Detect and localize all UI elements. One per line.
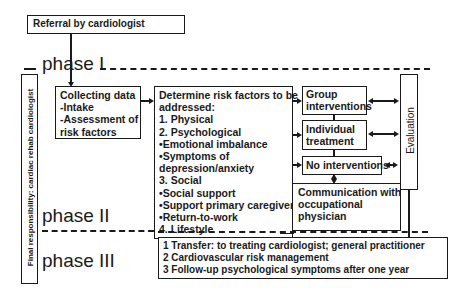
risk-line: Determine risk factors to be [159,89,288,101]
referral-label: Referral by cardiologist [33,18,179,30]
communication-box: Communication with occupational physicia… [292,183,401,231]
risk-line: 1. Physical [159,113,288,125]
responsibility-bar: Final responsibility: cardiac rehab card… [21,74,38,284]
individual-eval-line [372,133,394,135]
individual-eval-arrow-right [394,131,399,137]
phase-3-line: 2 Cardiovascular risk management [163,252,443,264]
risk-line: addressed: [159,101,288,113]
risk-line: depression/anxiety [159,162,288,174]
collecting-line: -Intake [60,101,136,113]
evaluation-label: Evaluation [405,101,416,161]
individual-line: Individual [306,123,363,135]
risk-line: •Symptoms of [159,150,288,162]
phase-3-line: 3 Follow-up psychological symptoms after… [163,264,443,276]
collecting-line: -Assessment of [60,113,136,125]
risk-line: 2. Psychological [159,126,288,138]
group-eval-line [372,100,394,102]
responsibility-label: Final responsibility: cardiac rehab card… [26,78,35,278]
individual-treatment-box: Individual treatment [302,120,367,150]
group-line: interventions [306,100,363,112]
risk-factors-box: Determine risk factors to be addressed: … [154,86,293,239]
phase-1-divider [100,68,430,70]
individual-line: treatment [306,135,363,147]
phase-3-label: phase III [42,251,115,271]
communication-line: physician [298,210,395,222]
evaluation-box: Evaluation [400,74,418,190]
phase-3-box: 1 Transfer: to treating cardiologist; ge… [158,237,448,279]
referral-box: Referral by cardiologist [27,15,185,34]
risk-line: 3. Social [159,174,288,186]
group-interventions-box: Group interventions [302,86,367,115]
no-interventions-box: No interventions [302,156,382,175]
phase-1-divider-left [24,68,36,70]
collecting-data-box: Collecting data -Intake -Assessment of r… [55,86,141,139]
no-interventions-label: No interventions [306,159,378,171]
risk-line: •Return-to-work [159,211,288,223]
phase-2-double-line [280,233,294,234]
risk-line: 4. Lifestyle [159,223,288,235]
phase-2-label: phase II [42,206,110,226]
phase-3-line: 1 Transfer: to treating cardiologist; ge… [163,240,443,252]
communication-line: occupational [298,198,395,210]
risk-line: •Emotional imbalance [159,138,288,150]
risk-line: •Social support [159,187,288,199]
group-eval-arrow-right [394,98,399,104]
group-line: Group [306,88,363,100]
none-eval-arrow-right [393,162,398,168]
collecting-line: Collecting data [60,89,136,101]
collecting-line: risk factors [60,126,136,138]
phase-1-label: phase I [42,54,104,74]
phase-2-divider [42,230,154,232]
communication-line: Communication with [298,186,395,198]
risk-line: •Support primary caregiver [159,199,288,211]
